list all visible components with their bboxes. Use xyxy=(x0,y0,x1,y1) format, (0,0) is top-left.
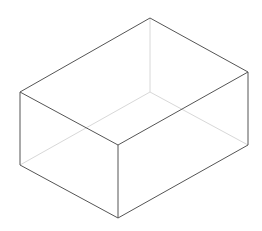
edge-top-back-left xyxy=(20,18,150,92)
wireframe-box-diagram xyxy=(0,0,262,231)
edge-top-back-right xyxy=(150,18,248,72)
edge-bottom-right xyxy=(118,145,248,218)
edge-bottom-left xyxy=(20,165,118,218)
visible-edges xyxy=(20,18,248,218)
